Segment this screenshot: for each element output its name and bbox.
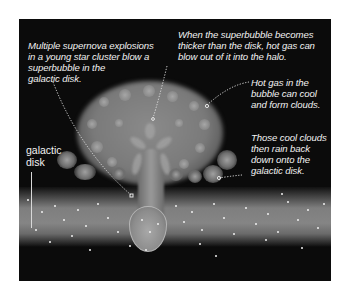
caption-line: Multiple supernova explosions	[28, 40, 154, 51]
caption-line: and form clouds.	[251, 99, 320, 110]
caption-line: When the superbubble becomes	[178, 29, 315, 40]
caption-line: galactic disk.	[28, 73, 154, 84]
caption-cooling: Hot gas in the bubble can cool and form …	[251, 77, 320, 110]
galactic-disk-label: galactic disk	[26, 145, 62, 168]
galactic-disk-indicator-line	[31, 172, 32, 228]
caption-blowout: When the superbubble becomes thicker tha…	[178, 29, 315, 62]
caption-line: thicker than the disk, hot gas can	[178, 40, 315, 51]
caption-line: in a young star cluster blow a	[28, 51, 154, 62]
caption-line: then rain back	[251, 143, 327, 154]
caption-line: blow out of it into the halo.	[178, 51, 315, 62]
diagram-frame: galactic disk Multiple supernova explosi…	[19, 19, 331, 281]
caption-rain: Those cool clouds then rain back down on…	[251, 132, 327, 176]
disk-label-line: disk	[26, 157, 62, 169]
caption-line: Those cool clouds	[251, 132, 327, 143]
disk-label-line: galactic	[26, 145, 62, 157]
caption-line: bubble can cool	[251, 88, 320, 99]
caption-line: Hot gas in the	[251, 77, 320, 88]
caption-line: galactic disk.	[251, 165, 327, 176]
caption-supernova: Multiple supernova explosions in a young…	[28, 40, 154, 84]
caption-line: down onto the	[251, 154, 327, 165]
caption-line: superbubble in the	[28, 62, 154, 73]
